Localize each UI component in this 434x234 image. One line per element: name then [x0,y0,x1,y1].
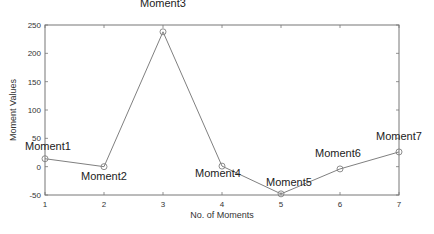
y-tick-label: 250 [28,21,42,30]
y-tick-label: 100 [28,106,42,115]
point-label: Moment7 [376,130,422,142]
point-label: Moment4 [195,167,241,179]
y-tick-label: -50 [29,191,41,200]
y-axis-label: Moment Values [8,79,18,141]
x-axis-label: No. of Moments [190,210,254,220]
point-label: Moment5 [266,176,312,188]
x-tick-label: 7 [397,200,402,209]
point-label: Moment3 [140,0,186,9]
x-tick-label: 4 [220,200,225,209]
point-annotations: Moment1Moment2Moment3Moment4Moment5Momen… [25,0,422,188]
y-tick-label: 150 [28,78,42,87]
y-tick-label: 200 [28,49,42,58]
x-tick-label: 1 [43,200,48,209]
x-tick-label: 3 [161,200,166,209]
point-label: Moment2 [81,170,127,182]
point-label: Moment6 [315,147,361,159]
x-tick-label: 5 [279,200,284,209]
y-tick-label: 0 [37,163,42,172]
x-tick-label: 2 [102,200,107,209]
point-label: Moment1 [25,140,71,152]
x-tick-label: 6 [338,200,343,209]
line-chart: -50050100150200250 1234567 Moment1Moment… [0,0,434,234]
